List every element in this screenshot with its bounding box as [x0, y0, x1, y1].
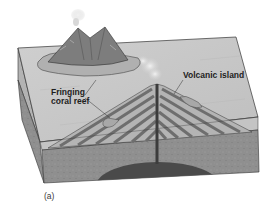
volcanic-island-diagram — [0, 0, 274, 204]
figure-caption: (a) — [44, 191, 54, 201]
volcanic-vent — [156, 84, 159, 164]
label-volcanic-island: Volcanic island — [183, 71, 244, 80]
label-fringing-reef-line2: coral reef — [51, 97, 89, 106]
